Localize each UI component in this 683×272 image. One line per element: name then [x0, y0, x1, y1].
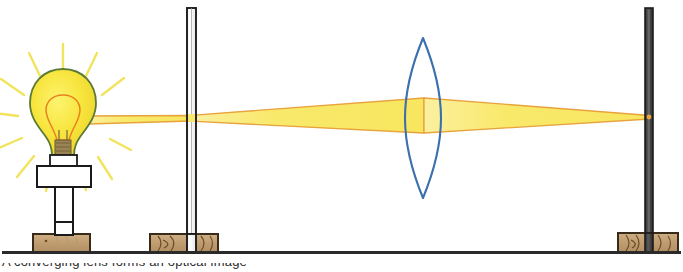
beam-segment-source-to-slit [88, 116, 191, 125]
light-beam [88, 98, 650, 133]
bulb-neck-collar [50, 155, 77, 166]
base-source-block [33, 234, 90, 252]
light-bulb-icon [30, 69, 96, 166]
screen-post-foot [645, 233, 653, 252]
bulb-filament-base [55, 140, 71, 155]
caption-strip: A converging lens forms an optical image [0, 263, 683, 272]
base-source-knot [45, 240, 48, 243]
optics-figure: A converging lens forms an optical image [0, 0, 683, 272]
holder-column-foot [55, 222, 73, 235]
slit-opening [188, 114, 195, 122]
base-slit-block [150, 234, 218, 252]
beam-segment-lens-to-screen [424, 98, 650, 133]
beam-segment-slit-to-lens [191, 98, 424, 133]
screen-post [645, 8, 653, 248]
focal-point [647, 115, 652, 120]
holder-cap [37, 166, 91, 187]
caption-text: A converging lens forms an optical image [2, 263, 247, 269]
slit-post-foot [187, 234, 196, 252]
wooden-base-slit [150, 234, 218, 252]
optics-diagram-canvas [0, 0, 683, 272]
wooden-base-source [33, 234, 90, 252]
slit-aperture-post [187, 8, 196, 248]
